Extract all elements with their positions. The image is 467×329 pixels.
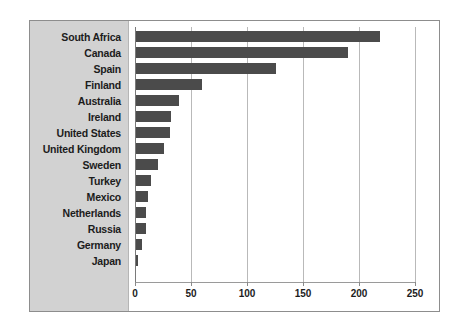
category-label: Ireland [30, 109, 128, 125]
bar[interactable] [136, 207, 146, 218]
bar[interactable] [136, 47, 348, 58]
bar-series [136, 29, 439, 311]
bar-row [136, 109, 439, 125]
bar-row [136, 45, 439, 61]
category-label: Turkey [30, 173, 128, 189]
category-label: Mexico [30, 189, 128, 205]
bar[interactable] [136, 191, 148, 202]
category-label: Finland [30, 77, 128, 93]
category-label: Australia [30, 93, 128, 109]
bar-row [136, 237, 439, 253]
category-label: Russia [30, 221, 128, 237]
bar-row [136, 77, 439, 93]
category-label-panel: South AfricaCanadaSpainFinlandAustraliaI… [30, 21, 129, 311]
bar-row [136, 93, 439, 109]
bar[interactable] [136, 95, 179, 106]
bar-row [136, 173, 439, 189]
category-label: Germany [30, 237, 128, 253]
category-label: United Kingdom [30, 141, 128, 157]
bar[interactable] [136, 159, 158, 170]
bar-row [136, 141, 439, 157]
bar-row [136, 205, 439, 221]
category-label: Canada [30, 45, 128, 61]
bar[interactable] [136, 255, 138, 266]
category-label: Spain [30, 61, 128, 77]
bar[interactable] [136, 79, 202, 90]
category-label: Netherlands [30, 205, 128, 221]
category-label: South Africa [30, 29, 128, 45]
category-label: Japan [30, 253, 128, 269]
bar[interactable] [136, 223, 146, 234]
bar-row [136, 61, 439, 77]
bar[interactable] [136, 143, 164, 154]
bar[interactable] [136, 175, 151, 186]
bar-row [136, 125, 439, 141]
bar[interactable] [136, 111, 171, 122]
bar[interactable] [136, 63, 276, 74]
plot-area: 050100150200250 [130, 21, 439, 311]
category-label: United States [30, 125, 128, 141]
bar[interactable] [136, 31, 380, 42]
bar-row [136, 157, 439, 173]
category-label: Sweden [30, 157, 128, 173]
bar-row [136, 189, 439, 205]
category-label-list: South AfricaCanadaSpainFinlandAustraliaI… [30, 29, 128, 269]
bar[interactable] [136, 239, 142, 250]
bar-row [136, 221, 439, 237]
bar-row [136, 253, 439, 269]
chart-figure: South AfricaCanadaSpainFinlandAustraliaI… [29, 20, 440, 312]
bar-row [136, 29, 439, 45]
bar[interactable] [136, 127, 170, 138]
